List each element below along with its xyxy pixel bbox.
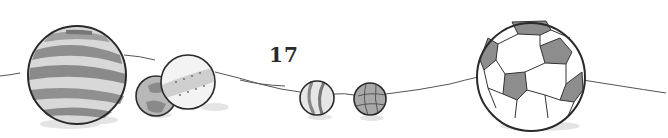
dotted-band-ball (161, 55, 215, 109)
large-striped-ball (28, 26, 126, 124)
soccer-ball (477, 21, 585, 131)
illustration: 17 (0, 0, 668, 138)
checkered-marble (354, 83, 386, 115)
balls-drawing (0, 0, 668, 138)
striped-marble (300, 81, 334, 115)
page-number: 17 (269, 43, 299, 67)
